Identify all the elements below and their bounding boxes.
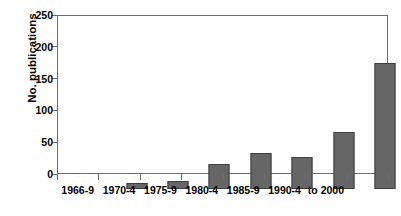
x-axis-tick-label: 1985-9	[223, 184, 264, 196]
bar-slot	[364, 32, 401, 189]
bar[interactable]	[333, 132, 354, 189]
x-axis-tick-label: to 2000	[305, 184, 346, 196]
x-axis-tick-mark	[305, 174, 306, 180]
x-axis-tick-label: 1970-4	[98, 184, 139, 196]
plot-area	[57, 15, 388, 174]
y-axis-tick-label: 0	[17, 169, 53, 179]
x-axis-tick-label: 1975-9	[140, 184, 181, 196]
x-axis-tick-mark	[388, 174, 389, 180]
bar[interactable]	[374, 63, 395, 189]
x-axis-tick-label: 1980-4	[181, 184, 222, 196]
bar-slot	[116, 32, 157, 189]
x-axis-tick-mark	[347, 174, 348, 180]
bar-slot	[282, 32, 323, 189]
x-axis-tick-mark	[140, 174, 141, 180]
bar-slot	[157, 32, 198, 189]
x-axis-tick-mark	[57, 174, 58, 180]
x-axis-tick-mark	[98, 174, 99, 180]
x-axis-tick-mark	[181, 174, 182, 180]
x-axis-tick-label: 1990-4	[264, 184, 305, 196]
x-axis-tick-mark	[223, 174, 224, 180]
bar-chart-figure: No. publications 050100150200250 1966-91…	[0, 0, 401, 216]
y-axis-tick-label: 150	[17, 74, 53, 84]
bar-series	[116, 32, 401, 189]
bar-slot	[323, 32, 364, 189]
bar-slot	[240, 32, 281, 189]
bar-slot	[199, 32, 240, 189]
y-axis-tick-label: 100	[17, 105, 53, 115]
x-axis-tick-mark	[264, 174, 265, 180]
y-axis-tick-label: 200	[17, 42, 53, 52]
y-axis-tick-label: 250	[17, 10, 53, 20]
x-axis-tick-label: 1966-9	[57, 184, 98, 196]
y-axis-tick-label: 50	[17, 137, 53, 147]
